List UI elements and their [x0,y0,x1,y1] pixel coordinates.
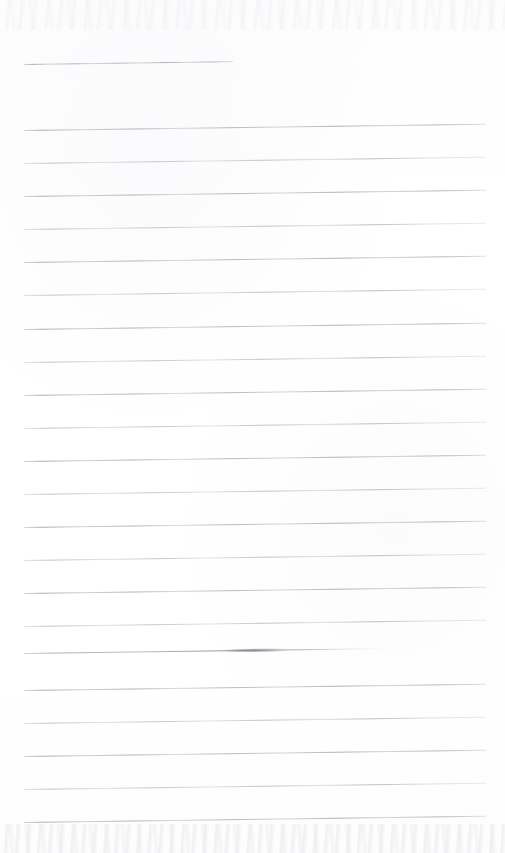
ruled-line [24,190,486,197]
ruled-line-ink [24,256,486,263]
scan-noise-top-edge [0,0,505,30]
ruled-line-ink [24,750,486,757]
ruled-line [24,488,486,495]
ruled-line-ink [24,289,486,296]
ruled-line-ink [24,587,486,594]
ruled-line-ink [24,620,486,627]
ruled-line-ink [24,157,486,164]
ruled-line-ink [24,717,486,724]
ruled-line-ink [24,61,233,65]
ruled-line-ink [24,323,486,330]
ruled-line [24,455,486,462]
ink-smudge [217,648,291,652]
ruled-line [24,717,486,724]
ruled-line [24,124,486,131]
ruled-line [24,356,486,363]
ruled-line-ink [24,684,486,691]
ruled-line [24,389,486,396]
scanned-page [0,0,505,853]
ruled-line [24,750,486,757]
ruled-line [24,422,486,429]
ruled-line-ink [24,455,486,462]
ruled-line [24,554,486,561]
ruled-line [24,783,486,790]
ruled-line-ink [24,422,486,429]
ruled-line-ink [24,124,486,131]
ruled-line [24,620,486,627]
ruled-line-ink [24,356,486,363]
ruled-line [24,223,486,230]
ruled-line-ink [24,190,486,197]
scan-noise-bottom-edge [0,824,505,853]
paper-texture [0,0,505,853]
ruled-line-ink [24,783,486,790]
ruled-line [24,521,486,528]
ruled-line [24,684,486,691]
ruled-line [24,289,486,296]
ruled-line-ink [24,554,486,561]
ruled-line-ink [24,389,486,396]
ruled-line [24,587,486,594]
ruled-line-ink [24,816,486,823]
ruled-line [24,323,486,330]
ruled-line [24,256,486,263]
ruled-line [24,157,486,164]
ruled-line [24,648,396,654]
ruled-line-ink [24,488,486,495]
ruled-line [24,816,486,823]
ruled-line [24,61,233,65]
ruled-line-ink [24,521,486,528]
ruled-line-ink [24,223,486,230]
ruled-line-ink [24,648,396,654]
